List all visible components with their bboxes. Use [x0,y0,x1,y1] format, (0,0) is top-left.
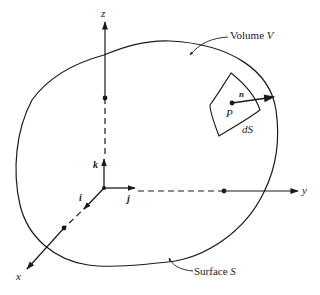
unit-vector-i [84,188,104,209]
surface-callout: Surface S [194,266,236,277]
unit-vector-j-label: j [127,194,130,204]
y-axis-point [222,189,227,194]
surface-element-label: dS [242,124,253,135]
volume-callout: Volume V [230,30,274,41]
closed-surface-curve [16,41,278,266]
x-axis-solid [27,228,64,269]
surface-symbol: S [230,265,236,277]
volume-callout-text: Volume [230,29,267,41]
z-axis-label: z [101,8,105,19]
diagram-graphics [0,0,320,295]
volume-leader-line [190,37,228,55]
x-axis-point [62,226,67,231]
normal-vector-label: n [239,90,244,99]
surface-callout-text: Surface [194,265,230,277]
unit-vector-k-label: k [93,160,98,170]
point-p-label: P [226,108,233,119]
diagram-canvas: z y x k j i n P dS Volume V Surface S [0,0,320,295]
volume-symbol: V [267,29,274,41]
z-axis-point [103,96,108,101]
x-axis-label: x [16,271,21,282]
unit-vector-i-label: i [79,193,82,203]
y-axis-label: y [302,185,307,196]
